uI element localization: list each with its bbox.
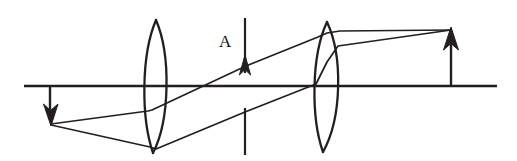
object-arrow [239,18,250,75]
ray-diagram-figure: A [0,0,517,161]
ray-diagram-canvas [0,0,517,161]
intermediate-image-arrow [44,86,59,126]
ray-lower [51,30,451,149]
final-image-arrow [444,27,459,86]
ray-bundle [51,30,451,149]
object-label-a: A [219,33,231,50]
